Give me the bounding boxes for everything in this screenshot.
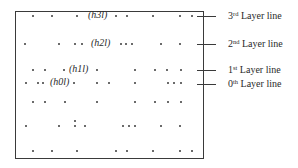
reflection-spot xyxy=(81,43,83,45)
reflection-spot xyxy=(84,125,86,127)
reflection-spot xyxy=(74,120,76,122)
reflection-spot xyxy=(96,101,98,103)
reflection-spot xyxy=(122,125,124,127)
reflection-spot xyxy=(96,69,98,71)
reflection-spot xyxy=(179,125,181,127)
reflection-spot xyxy=(126,15,128,17)
reflection-spot xyxy=(131,43,133,45)
reflection-spot xyxy=(42,82,44,84)
reflection-spot xyxy=(152,15,154,17)
reflection-spot xyxy=(134,125,136,127)
reflection-spot xyxy=(191,15,193,17)
reflection-spot xyxy=(74,125,76,127)
reflection-spot xyxy=(108,82,110,84)
reflection-spot xyxy=(24,43,26,45)
reflection-spot xyxy=(32,69,34,71)
reflection-spot xyxy=(173,82,175,84)
reflection-index-label: (h1l) xyxy=(69,64,88,74)
reflection-spot xyxy=(180,101,182,103)
reflection-spot xyxy=(126,150,128,152)
reflection-spot xyxy=(37,82,39,84)
reflection-spot xyxy=(152,150,154,152)
layer-line-tick xyxy=(197,84,216,85)
reflection-spot xyxy=(58,43,60,45)
reflection-spot xyxy=(134,69,136,71)
reflection-spot xyxy=(167,101,169,103)
reflection-spot xyxy=(179,43,181,45)
reflection-spot xyxy=(44,69,46,71)
layer-line-tick xyxy=(197,44,216,45)
layer-line-label: 3rd Layer line xyxy=(228,11,282,21)
reflection-spot xyxy=(134,82,136,84)
layer-line-label: 2nd Layer line xyxy=(228,39,283,49)
layer-line-tick xyxy=(197,70,216,71)
layer-line-label: 0th Layer line xyxy=(228,79,281,89)
reflection-spot xyxy=(25,82,27,84)
reflection-spot xyxy=(160,125,162,127)
reflection-spot xyxy=(120,43,122,45)
reflection-spot xyxy=(125,43,127,45)
reflection-spot xyxy=(76,150,78,152)
layer-line-label: 1st Layer line xyxy=(228,65,281,75)
diffraction-frame xyxy=(15,11,204,159)
reflection-spot xyxy=(115,15,117,17)
reflection-index-label: (h3l) xyxy=(88,10,107,20)
reflection-spot xyxy=(32,101,34,103)
reflection-spot xyxy=(74,43,76,45)
reflection-spot xyxy=(63,69,65,71)
reflection-spot xyxy=(25,125,27,127)
reflection-spot xyxy=(160,43,162,45)
reflection-spot xyxy=(96,82,98,84)
reflection-spot xyxy=(179,150,181,152)
reflection-spot xyxy=(115,150,117,152)
reflection-spot xyxy=(180,69,182,71)
reflection-index-label: (h2l) xyxy=(91,38,110,48)
reflection-spot xyxy=(179,15,181,17)
reflection-spot xyxy=(73,82,75,84)
reflection-spot xyxy=(154,69,156,71)
reflection-spot xyxy=(191,150,193,152)
layer-line-tick xyxy=(197,16,216,17)
reflection-spot xyxy=(64,101,66,103)
reflection-spot xyxy=(134,101,136,103)
reflection-spot xyxy=(58,125,60,127)
reflection-spot xyxy=(32,15,34,17)
reflection-spot xyxy=(76,15,78,17)
reflection-spot xyxy=(154,101,156,103)
reflection-spot xyxy=(166,69,168,71)
reflection-spot xyxy=(44,101,46,103)
reflection-spot xyxy=(167,82,169,84)
reflection-spot xyxy=(51,15,53,17)
reflection-spot xyxy=(32,150,34,152)
reflection-spot xyxy=(180,82,182,84)
reflection-index-label: (h0l) xyxy=(50,77,69,87)
reflection-spot xyxy=(128,125,130,127)
reflection-spot xyxy=(51,150,53,152)
